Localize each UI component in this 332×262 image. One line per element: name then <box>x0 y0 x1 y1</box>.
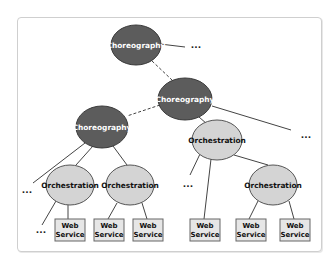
web-service-box: Web Service <box>236 219 266 241</box>
web-service-label-line2: Service <box>280 231 309 239</box>
ellipsis-more1: ... <box>191 40 201 50</box>
web-service-label-line1: Web <box>242 222 259 230</box>
edge-o4-w6 <box>289 201 294 219</box>
orchestration-node: Orchestration <box>244 165 302 205</box>
ellipsis-more5: ... <box>183 179 193 189</box>
web-service-label-line2: Service <box>94 231 123 239</box>
edge-c3-o1 <box>76 146 93 165</box>
ellipsis-more3: ... <box>22 185 32 195</box>
edge-o3-w2 <box>108 203 117 219</box>
edge-c2-c3 <box>127 105 160 116</box>
choreography-label: Choreography <box>73 123 132 132</box>
edge-o2-more5 <box>190 154 200 175</box>
choreography-node: Choreography <box>73 106 132 148</box>
orchestration-label: Orchestration <box>101 181 159 190</box>
orchestration-label: Orchestration <box>244 181 302 190</box>
choreography-node: Choreography <box>156 78 215 120</box>
choreography-label: Choreography <box>107 41 166 50</box>
web-service-label-line1: Web <box>139 222 156 230</box>
web-service-box: Web Service <box>133 219 163 241</box>
orchestration-node: Orchestration <box>101 165 159 205</box>
orchestration-node: Orchestration <box>41 165 99 205</box>
web-service-label-line1: Web <box>286 222 303 230</box>
orchestration-label: Orchestration <box>41 181 99 190</box>
web-service-label-line1: Web <box>100 222 117 230</box>
web-service-label-line1: Web <box>196 222 213 230</box>
edge-c3-o3 <box>113 146 127 165</box>
web-service-box: Web Service <box>280 219 310 241</box>
web-service-box: Web Service <box>55 219 85 241</box>
web-service-label-line1: Web <box>61 222 78 230</box>
orchestration-node: Orchestration <box>188 120 246 160</box>
edge-o3-w3 <box>142 203 147 219</box>
hierarchy-diagram: ... ... ... ... ... Choreography Choreog… <box>0 0 332 262</box>
choreography-label: Choreography <box>156 95 215 104</box>
web-service-label-line2: Service <box>190 231 219 239</box>
edge-o2-w4 <box>204 159 211 219</box>
orchestration-label: Orchestration <box>188 136 246 145</box>
edge-o1-more4 <box>42 201 56 225</box>
ellipsis-more2: ... <box>301 130 311 140</box>
edge-c1-c2 <box>152 61 172 80</box>
web-service-label-line2: Service <box>133 231 162 239</box>
web-service-box: Web Service <box>94 219 124 241</box>
edge-o4-w5 <box>249 201 258 219</box>
web-service-box: Web Service <box>190 219 220 241</box>
web-service-label-line2: Service <box>236 231 265 239</box>
choreography-node: Choreography <box>107 25 166 65</box>
ellipsis-more4: ... <box>36 225 46 235</box>
web-service-label-line2: Service <box>55 231 84 239</box>
edge-o2-o4 <box>234 155 268 165</box>
